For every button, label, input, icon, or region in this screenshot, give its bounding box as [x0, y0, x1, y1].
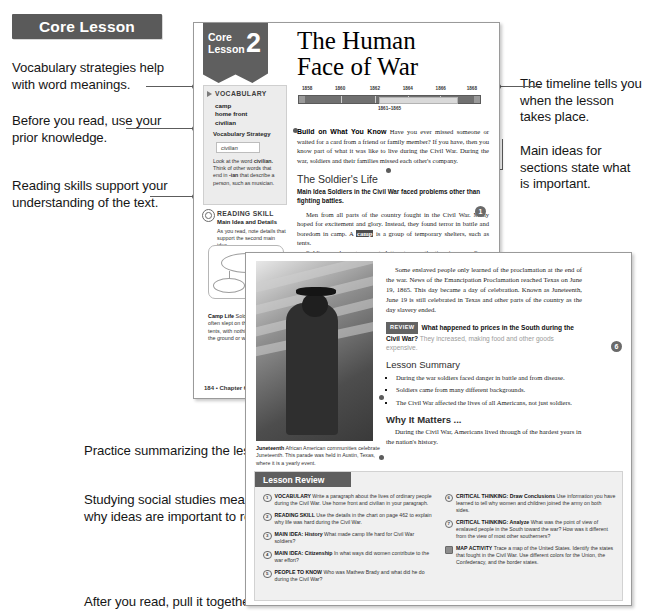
- vocabulary-terms: camp home front civilian: [215, 102, 247, 127]
- timeline-year-1858: 1858: [302, 86, 312, 91]
- lesson-review-panel: Lesson Review 1 VOCABULARY Write a parag…: [254, 471, 623, 601]
- item-badge: 3: [263, 532, 272, 541]
- lesson-review-header: Lesson Review: [255, 472, 351, 487]
- summary-item: Soldiers came from many different backgr…: [396, 385, 582, 395]
- timeline-year-1868: 1868: [467, 86, 477, 91]
- item-text: PEOPLE TO KNOW Who was Mathew Brady and …: [275, 569, 435, 583]
- vocabulary-strategy-heading: Vocabulary Strategy: [213, 131, 271, 137]
- callout-reading-skills: Reading skills support your understandin…: [12, 178, 190, 211]
- timeline-span-highlight: [379, 97, 459, 104]
- reading-skill-subheading: Main Idea and Details: [217, 219, 277, 225]
- page-folio-184: 184 • Chapter 6: [204, 385, 247, 391]
- triangle-icon: [207, 91, 212, 97]
- lesson-review-item[interactable]: 7 CRITICAL THINKING: Analyze What was th…: [445, 519, 617, 540]
- reading-skill-heading: READING SKILL: [217, 210, 274, 217]
- build-on-what-you-know: Build on What You Know Have you ever mis…: [297, 127, 489, 165]
- item-title: CRITICAL THINKING: Draw Conclusions: [456, 493, 555, 499]
- why-it-matters-body: During the Civil War, Americans lived th…: [386, 427, 582, 447]
- item-badge: 2: [263, 513, 272, 522]
- body-paragraph-1: Men from all parts of the country fought…: [297, 210, 489, 248]
- summary-item: During the war soldiers faced danger in …: [396, 373, 582, 383]
- vocab-note-d: -ian: [229, 172, 238, 178]
- item-text: MAP ACTIVITY Trace a map of the United S…: [456, 545, 616, 566]
- item-title: PEOPLE TO KNOW: [275, 569, 322, 575]
- section-number-marker: 1: [475, 206, 486, 217]
- item-badge: 6: [445, 494, 454, 503]
- timeline-span-label: 1861–1865: [298, 106, 481, 111]
- item-title: MAP ACTIVITY: [456, 545, 492, 551]
- lesson-review-item[interactable]: 6 CRITICAL THINKING: Draw Conclusions Us…: [445, 493, 617, 514]
- timeline-year-1866: 1866: [436, 86, 446, 91]
- callout-main-ideas: Main ideas for sections state what is im…: [520, 143, 642, 193]
- timeline-year-1860: 1860: [335, 86, 345, 91]
- item-badge: 5: [263, 570, 272, 579]
- review-question-block: REVIEWWhat happened to prices in the Sou…: [386, 322, 582, 353]
- item-text: MAIN IDEA: Citizenship In what ways did …: [275, 550, 435, 564]
- build-label: Build on What You Know: [297, 128, 386, 135]
- item-title: VOCABULARY: [275, 493, 311, 499]
- vocab-note-a: Look at the word: [213, 158, 254, 164]
- vocabulary-strategy-word: civilian: [216, 142, 260, 153]
- vocabulary-term-camp: camp: [215, 102, 247, 110]
- item-badge: 4: [263, 551, 272, 560]
- bullet-marker-mainidea: [386, 168, 391, 173]
- page-title-line2: Face of War: [297, 54, 493, 80]
- page-title-line1: The Human: [297, 28, 493, 54]
- timeline-year-1862: 1862: [370, 86, 380, 91]
- keyword-camp: camp: [356, 230, 373, 237]
- vocabulary-heading: VOCABULARY: [215, 90, 267, 97]
- lesson-summary-list: During the war soldiers faced danger in …: [386, 373, 582, 408]
- lesson-review-item[interactable]: 3 MAIN IDEA: History What made camp life…: [263, 531, 435, 545]
- lesson-flag-lesson: Lesson: [208, 44, 245, 55]
- item-badge: 7: [445, 520, 454, 529]
- lesson-review-heading: Lesson Review: [263, 475, 324, 485]
- lesson-review-left-column: 1 VOCABULARY Write a paragraph about the…: [263, 493, 435, 588]
- timeline-bar: [298, 95, 481, 104]
- juneteenth-caption: Juneteenth African American communities …: [256, 445, 384, 467]
- soldier-figure: [286, 303, 338, 435]
- callout-timeline: The timeline tells you when the lesson t…: [520, 76, 642, 126]
- lesson-flag-number: 2: [246, 29, 261, 57]
- organizer-connector-left: [229, 271, 230, 279]
- lesson-review-right-column: 6 CRITICAL THINKING: Draw Conclusions Us…: [445, 493, 617, 588]
- page-two-column: Some enslaved people only learned of the…: [386, 265, 582, 447]
- juneteenth-title: Juneteenth: [256, 445, 284, 451]
- item-title: CRITICAL THINKING: Analyze: [456, 519, 529, 525]
- item-title: MAIN IDEA: Citizenship: [275, 550, 333, 556]
- lesson-flag-core: Core: [208, 32, 232, 43]
- item-text: CRITICAL THINKING: Analyze What was the …: [456, 519, 616, 540]
- core-lesson-banner-label: Core Lesson: [39, 18, 135, 36]
- bullet-marker-summary: [379, 395, 384, 400]
- timeline-year-labels: 1858 1860 1862 1864 1866 1868: [298, 86, 481, 95]
- main-idea-statement: Main Idea Soldiers in the Civil War face…: [297, 188, 489, 205]
- lesson-review-item[interactable]: MAP ACTIVITY Trace a map of the United S…: [445, 545, 617, 566]
- textbook-page-185: Juneteenth African American communities …: [245, 252, 632, 606]
- lesson-flag: Core Lesson 2: [203, 23, 268, 83]
- timeline-cap-right: [474, 96, 480, 103]
- vocabulary-term-civilian: civilian: [215, 119, 247, 127]
- item-title: READING SKILL: [275, 512, 315, 518]
- vocab-note-b: civilian.: [254, 158, 273, 164]
- item-text: CRITICAL THINKING: Draw Conclusions Use …: [456, 493, 616, 514]
- lesson-summary-heading: Lesson Summary: [386, 359, 582, 370]
- soldier-flag-photograph: [256, 261, 373, 441]
- timeline-tick-1860: [341, 96, 342, 103]
- lesson-review-item[interactable]: 2 READING SKILL Use the details in the c…: [263, 512, 435, 526]
- lesson-review-item[interactable]: 5 PEOPLE TO KNOW Who was Mathew Brady an…: [263, 569, 435, 583]
- lesson-review-item[interactable]: 1 VOCABULARY Write a paragraph about the…: [263, 493, 435, 507]
- lesson-review-item[interactable]: 4 MAIN IDEA: Citizenship In what ways di…: [263, 550, 435, 564]
- section-heading: The Soldier's Life: [297, 173, 489, 185]
- item-text: VOCABULARY Write a paragraph about the l…: [275, 493, 435, 507]
- organizer-node-left: [213, 278, 245, 293]
- timeline-cap-left: [299, 96, 305, 103]
- item-title: MAIN IDEA: History: [275, 531, 323, 537]
- leader-mainidea-riser: [502, 139, 503, 170]
- bullet-marker-build: [293, 128, 298, 133]
- item-text: READING SKILL Use the details in the cha…: [275, 512, 435, 526]
- callout-vocabulary: Vocabulary strategies help with word mea…: [12, 60, 184, 93]
- vocabulary-box: VOCABULARY camp home front civilian Voca…: [203, 85, 287, 205]
- why-it-matters-heading: Why It Matters ...: [386, 414, 582, 425]
- summary-item: The Civil War affected the lives of all …: [396, 398, 582, 408]
- target-icon: [202, 209, 215, 222]
